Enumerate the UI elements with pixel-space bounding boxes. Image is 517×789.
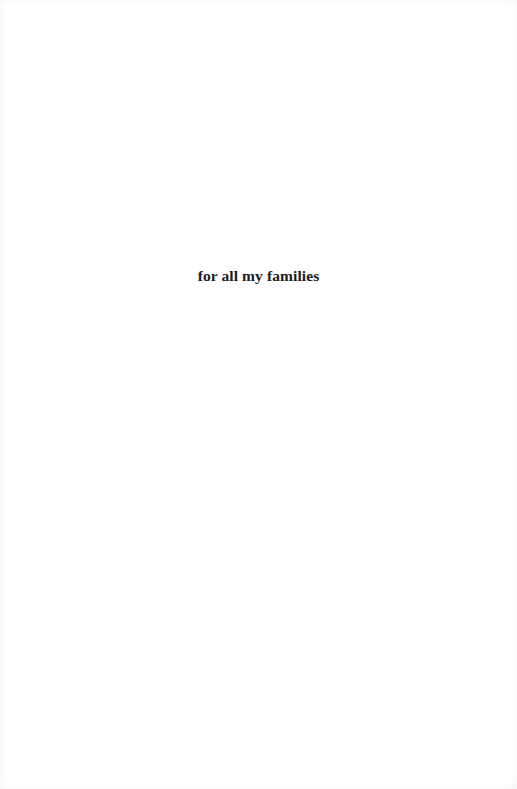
dedication-text: for all my families: [0, 266, 517, 286]
book-page: for all my families: [0, 0, 517, 789]
